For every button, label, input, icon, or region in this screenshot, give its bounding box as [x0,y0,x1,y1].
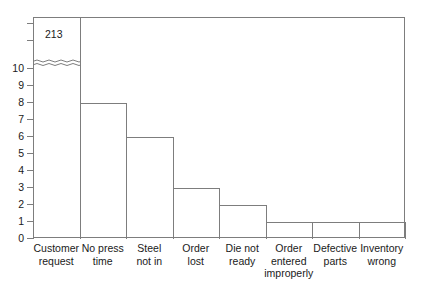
pareto-chart: 012345678910 213 CustomerrequestNo press… [0,0,426,283]
y-axis-tick-label: 2 [2,199,24,209]
bar-order-entered-improperly [266,222,314,239]
y-axis-tick-label: 7 [2,114,24,124]
y-axis-tick-label: 3 [2,182,24,192]
y-axis-tick-label: 4 [2,165,24,175]
bar-inventory-wrong [359,222,407,239]
x-axis-label-line: Inventory [355,242,410,255]
plot-frame [33,17,405,238]
x-axis-label-line: wrong [355,255,410,268]
bar-value-label-customer-request: 213 [45,29,63,40]
axis-break-squiggle [34,59,80,66]
y-axis-tick-label: 9 [2,80,24,90]
y-axis-tick-label: 1 [2,216,24,226]
y-axis-tick-label: 8 [2,97,24,107]
y-axis-tick-label: 0 [2,233,24,243]
bar-customer-request [33,17,81,239]
x-axis-label-inventory-wrong: Inventorywrong [355,242,410,267]
bar-order-lost [173,188,221,239]
bar-die-not-ready [219,205,267,239]
bar-steel-not-in [126,137,174,239]
x-axis-label-line: improperly [262,267,317,280]
bar-no-press-time [80,103,128,239]
y-axis-tick-label: 6 [2,131,24,141]
y-axis-tick-label: 5 [2,148,24,158]
bar-defective-parts [312,222,360,239]
y-axis-tick-label: 10 [2,63,24,73]
